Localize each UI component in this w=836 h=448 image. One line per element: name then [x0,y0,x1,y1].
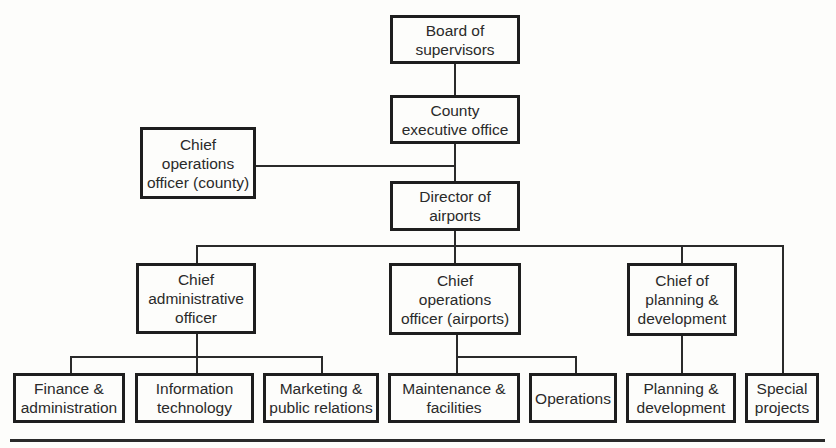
box-label: County executive office [402,101,509,139]
box-maintenance-facilities: Maintenance & facilities [388,373,520,423]
box-chief-administrative-officer: Chief administrative officer [136,263,256,334]
box-label: Information technology [156,379,234,417]
box-planning-development: Planning & development [626,373,736,423]
box-label: Chief operations officer (airports) [401,271,509,328]
connector-director-branch [196,245,784,247]
connector-to-cpd [681,245,683,263]
box-information-technology: Information technology [135,373,254,423]
box-chief-of-planning-development: Chief of planning & development [627,263,737,336]
box-operations: Operations [529,373,617,423]
box-label: Planning & development [637,379,726,417]
connector-to-marketing [321,356,323,374]
box-label: Board of supervisors [415,21,494,59]
connector-cex-director [454,143,456,181]
connector-to-finance [70,356,72,374]
connector-to-coo-airports [454,245,456,263]
box-marketing-public-relations: Marketing & public relations [263,373,379,423]
connector-cpd-down [681,336,683,374]
box-chief-operations-officer-county: Chief operations officer (county) [140,127,256,199]
box-chief-operations-officer-airports: Chief operations officer (airports) [389,263,521,335]
box-label: Special projects [755,379,809,417]
box-label: Maintenance & facilities [402,379,505,417]
box-county-executive-office: County executive office [390,95,520,144]
caption-rule [10,439,825,442]
box-label: Director of airports [419,187,491,225]
box-finance-administration: Finance & administration [13,373,125,423]
box-label: Operations [535,389,611,408]
connector-to-cao [196,245,198,263]
box-board-of-supervisors: Board of supervisors [390,15,520,64]
box-director-of-airports: Director of airports [390,181,520,231]
box-label: Chief operations officer (county) [147,135,249,192]
box-label: Chief of planning & development [638,271,727,328]
box-special-projects: Special projects [745,373,819,423]
connector-coo-airports-down [456,335,458,374]
connector-to-operations [575,356,577,374]
connector-coo-airports-branch [456,356,577,358]
connector-cao-down [196,333,198,357]
connector-board-cex [454,63,456,95]
box-label: Chief administrative officer [148,270,244,327]
box-label: Marketing & public relations [269,379,372,417]
box-label: Finance & administration [21,379,118,417]
connector-to-it [196,356,198,374]
connector-coo-county [255,165,455,167]
org-chart: Board of supervisors County executive of… [0,0,836,448]
connector-to-special [782,245,784,374]
